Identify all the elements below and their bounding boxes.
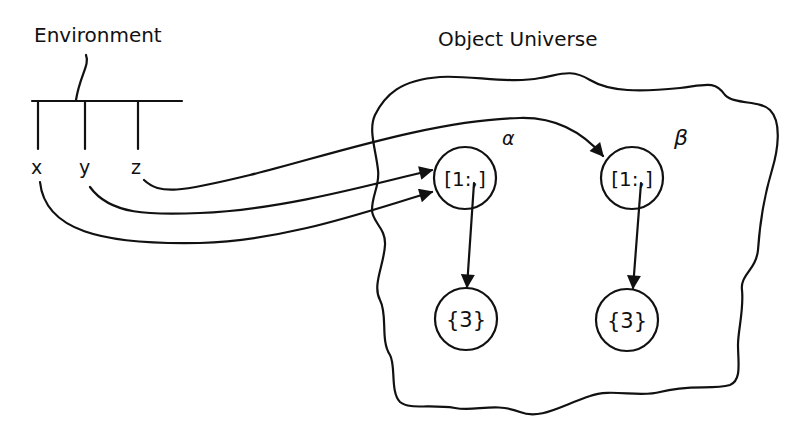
- binding-z-to-beta: [144, 118, 603, 190]
- universe-title: Object Universe: [438, 27, 597, 51]
- environment-title: Environment: [34, 23, 162, 47]
- alpha-content: [1:,]: [444, 167, 485, 191]
- object-alpha: [1:,] α {3}: [434, 127, 515, 350]
- alpha-label: α: [502, 127, 515, 149]
- environment-pointer-line: [76, 55, 87, 100]
- alpha-child-content: {3}: [446, 308, 486, 332]
- beta-label: β: [673, 125, 688, 150]
- var-y-label: y: [79, 156, 90, 178]
- beta-child-content: {3}: [607, 309, 647, 333]
- var-x-label: x: [31, 156, 42, 178]
- universe-boundary: [372, 73, 778, 414]
- beta-content: [1:,]: [611, 167, 652, 191]
- object-beta: [1:,] β {3}: [596, 125, 688, 351]
- var-z-label: z: [131, 156, 141, 178]
- diagram-canvas: Environment x y z Object Universe [1:,] …: [0, 0, 801, 434]
